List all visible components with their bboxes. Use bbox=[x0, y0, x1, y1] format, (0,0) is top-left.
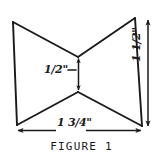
figure-container: 1/2" 1 1/2" 1 3/4" FIGURE 1 bbox=[0, 0, 163, 159]
waist-height-label: 1/2" bbox=[44, 64, 68, 75]
overall-width-label: 1 3/4" bbox=[57, 117, 92, 128]
overall-height-label: 1 1/2" bbox=[131, 27, 142, 62]
waist-to-top-right-edge bbox=[78, 18, 135, 57]
figure-caption: FIGURE 1 bbox=[0, 140, 163, 153]
bowtie-outline bbox=[13, 18, 142, 126]
technical-drawing bbox=[0, 0, 163, 159]
top-left-to-waist-edge bbox=[13, 22, 78, 57]
left-vertical-edge bbox=[13, 22, 17, 125]
